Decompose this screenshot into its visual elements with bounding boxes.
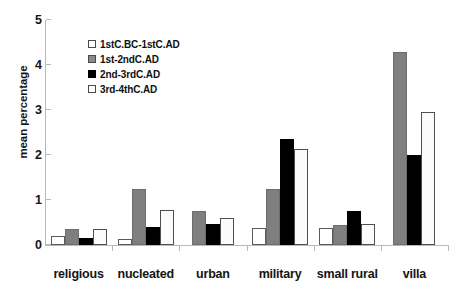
x-axis-category-label: small rural <box>314 267 381 281</box>
bar <box>252 228 266 245</box>
bar <box>132 189 146 245</box>
bar <box>333 225 347 245</box>
bar <box>347 211 361 245</box>
bar <box>51 236 65 245</box>
bar <box>160 210 174 245</box>
y-axis-tick-label: 2 <box>18 148 42 162</box>
bar <box>79 238 93 245</box>
bar-group-bars <box>381 20 448 245</box>
x-axis-category-label: villa <box>381 267 448 281</box>
x-axis-category-label: nucleated <box>112 267 179 281</box>
bar <box>220 218 234 245</box>
legend-label: 1st-2ndC.AD <box>100 54 159 65</box>
bar <box>192 211 206 245</box>
bar <box>65 229 79 245</box>
legend-label: 3rd-4thC.AD <box>100 84 157 95</box>
legend-swatch <box>88 85 96 93</box>
bar-group <box>381 20 448 245</box>
chart-legend: 1stC.BC-1stC.AD1st-2ndC.AD2nd-3rdC.AD3rd… <box>88 38 180 98</box>
bar-group <box>247 20 314 245</box>
bar <box>319 228 333 245</box>
bar <box>421 112 435 245</box>
bar-group-bars <box>314 20 381 245</box>
bar-group-bars <box>247 20 314 245</box>
x-axis-category-label: urban <box>179 267 246 281</box>
x-axis-group-separator <box>314 245 315 251</box>
bar-group <box>314 20 381 245</box>
bar-chart: mean percentage 012345 religiousnucleate… <box>0 0 458 289</box>
bar <box>294 149 308 245</box>
x-axis-group-separator <box>112 245 113 251</box>
legend-swatch <box>88 40 96 48</box>
x-axis-group-separator <box>448 245 449 251</box>
legend-swatch <box>88 55 96 63</box>
bar <box>118 239 132 245</box>
legend-item: 2nd-3rdC.AD <box>88 68 180 80</box>
y-axis-tick-label: 5 <box>18 13 42 27</box>
bar-group <box>179 20 246 245</box>
bar <box>266 189 280 245</box>
y-axis-tick-label: 3 <box>18 103 42 117</box>
x-axis-group-separator <box>381 245 382 251</box>
x-axis-category-label: military <box>247 267 314 281</box>
x-axis-group-separator <box>247 245 248 251</box>
bar <box>93 229 107 245</box>
bar <box>146 227 160 245</box>
bar <box>206 224 220 245</box>
bar <box>407 155 421 245</box>
legend-item: 3rd-4thC.AD <box>88 83 180 95</box>
y-axis-tick-label: 0 <box>18 238 42 252</box>
legend-swatch <box>88 70 96 78</box>
legend-label: 2nd-3rdC.AD <box>100 69 160 80</box>
x-axis-group-separator <box>179 245 180 251</box>
legend-label: 1stC.BC-1stC.AD <box>100 39 180 50</box>
bar <box>280 139 294 245</box>
bar-group-bars <box>179 20 246 245</box>
x-axis-category-label: religious <box>45 267 112 281</box>
y-axis-tick-label: 4 <box>18 58 42 72</box>
bar <box>361 224 375 245</box>
legend-item: 1st-2ndC.AD <box>88 53 180 65</box>
bar <box>393 52 407 245</box>
legend-item: 1stC.BC-1stC.AD <box>88 38 180 50</box>
y-axis-tick-label: 1 <box>18 193 42 207</box>
